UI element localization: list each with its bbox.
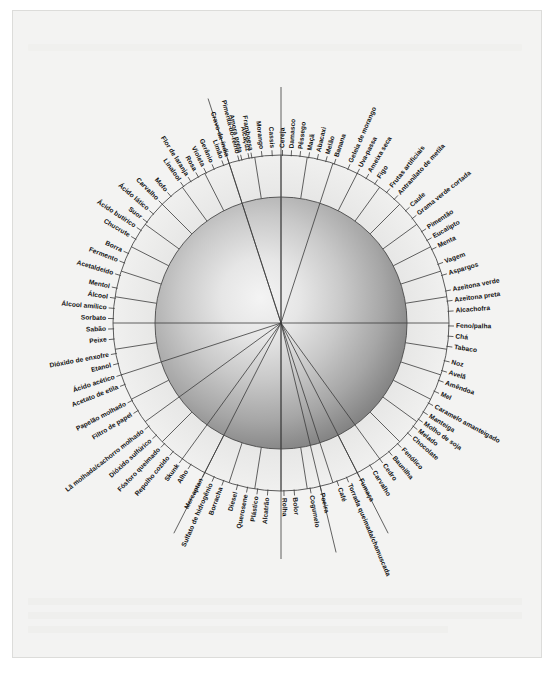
aroma-label: Azeitona preta — [454, 290, 501, 304]
aroma-label: Feno/palha — [456, 322, 492, 331]
label-leader — [412, 215, 417, 219]
aroma-label: Tabaco — [454, 343, 478, 353]
label-leader — [418, 419, 423, 422]
spoke-lines — [113, 87, 449, 559]
aroma-label: Mentol — [88, 278, 111, 289]
aroma-label: Poeira — [319, 492, 331, 514]
figure-page: AlcaçuzPimenta-do-reinoCravo-da-índiaGer… — [0, 0, 554, 678]
label-leader — [188, 464, 191, 469]
label-leader — [374, 180, 377, 185]
label-leader — [413, 426, 418, 430]
label-leader — [152, 435, 156, 439]
label-leader — [369, 465, 372, 470]
aroma-label: Peixe — [89, 336, 107, 345]
aroma-label: Café — [337, 487, 349, 503]
aroma-label: Etanol — [90, 361, 112, 373]
label-leader — [397, 443, 401, 447]
aroma-label: Sorbato — [81, 314, 106, 322]
aroma-label: Damasco — [287, 118, 296, 148]
aroma-label: Figo — [375, 164, 390, 180]
label-leader — [109, 308, 115, 309]
aroma-label: Banana — [333, 133, 347, 158]
aroma-label: Avelã — [448, 369, 467, 381]
label-leader — [170, 451, 174, 456]
label-leader — [168, 192, 172, 197]
label-leader — [133, 410, 138, 413]
label-leader — [149, 211, 154, 215]
label-leader — [423, 411, 428, 414]
label-leader — [143, 219, 148, 223]
label-leader — [137, 228, 142, 231]
aroma-label: Rolha — [281, 498, 288, 517]
aroma-label: Álcool — [87, 289, 109, 300]
aroma-label: Vagem — [443, 250, 466, 265]
aroma-label: Sabão — [86, 325, 106, 333]
aroma-label: Morango — [254, 121, 265, 150]
aroma-label: Mofo — [154, 176, 170, 193]
label-leader — [405, 207, 409, 211]
aroma-label: Bolor — [292, 497, 300, 515]
label-leader — [379, 458, 383, 463]
label-leader — [179, 458, 183, 463]
aroma-label: Alcachofra — [455, 304, 490, 313]
aroma-label: Cassis — [268, 126, 276, 148]
label-leader — [181, 182, 184, 187]
aroma-label: Querosene — [235, 493, 250, 529]
label-leader — [407, 433, 412, 437]
aroma-label: Noz — [451, 358, 465, 368]
label-leader — [386, 189, 390, 194]
aroma-label: Alho — [175, 468, 189, 484]
aroma-label: Diesel — [226, 491, 238, 512]
aroma-wheel: AlcaçuzPimenta-do-reinoCravo-da-índiaGer… — [0, 0, 554, 678]
aroma-label: Cogumelo — [308, 495, 322, 529]
aroma-label: Mel — [440, 390, 453, 401]
label-leader — [421, 229, 426, 232]
aroma-label: Acetaldeído — [76, 258, 114, 275]
aroma-label: Plástico — [249, 496, 260, 522]
aroma-label: Chá — [455, 332, 468, 340]
aroma-label: Álcool amílico — [61, 299, 107, 311]
label-leader — [394, 195, 398, 199]
label-leader — [388, 451, 392, 456]
label-leader — [159, 201, 163, 205]
label-leader — [161, 443, 165, 447]
aroma-label: Grama verde cortada — [415, 169, 472, 216]
aroma-label: Aspargos — [448, 260, 480, 277]
label-leader — [145, 426, 150, 430]
label-leader — [188, 177, 191, 182]
aroma-label: Alcatrão — [261, 497, 270, 524]
aroma-label: Cereja — [278, 127, 286, 148]
